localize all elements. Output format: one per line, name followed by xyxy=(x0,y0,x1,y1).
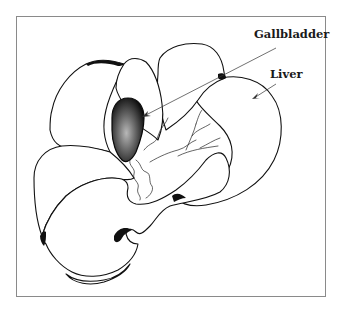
liver-label: Liver xyxy=(270,67,303,81)
common-bile-duct xyxy=(136,160,153,198)
cystic-duct xyxy=(130,160,141,200)
liver-illustration: Gallbladder Liver xyxy=(0,0,343,310)
gallbladder xyxy=(112,98,144,162)
gallbladder-label: Gallbladder xyxy=(254,27,330,41)
